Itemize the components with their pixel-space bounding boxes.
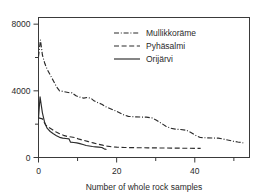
series-line-1: [39, 40, 244, 143]
y-tick-label: 4000: [12, 86, 31, 96]
y-axis-ticks: [34, 24, 39, 157]
chart-figure: 040008000 02040 MullikkorämePyhäsalmiOri…: [0, 0, 263, 195]
series-line-3: [39, 97, 107, 150]
chart-legend: MullikkorämePyhäsalmiOrijärvi: [114, 28, 196, 64]
line-chart: 040008000 02040 MullikkorämePyhäsalmiOri…: [0, 0, 263, 195]
series-line-2: [39, 118, 201, 149]
legend-label-3: Orijärvi: [146, 54, 173, 64]
series-layer: [39, 40, 244, 150]
x-tick-label: 20: [112, 166, 122, 176]
y-tick-label: 8000: [12, 19, 31, 29]
legend-label-1: Mullikkoräme: [146, 28, 196, 38]
y-tick-label: 0: [26, 153, 31, 163]
y-axis-tick-labels: 040008000: [12, 19, 31, 162]
x-axis-ticks: [39, 158, 234, 163]
x-tick-label: 40: [190, 166, 200, 176]
x-axis-label: Number of whole rock samples: [86, 182, 203, 192]
x-axis-tick-labels: 02040: [36, 166, 200, 176]
x-tick-label: 0: [36, 166, 41, 176]
legend-label-2: Pyhäsalmi: [146, 41, 185, 51]
